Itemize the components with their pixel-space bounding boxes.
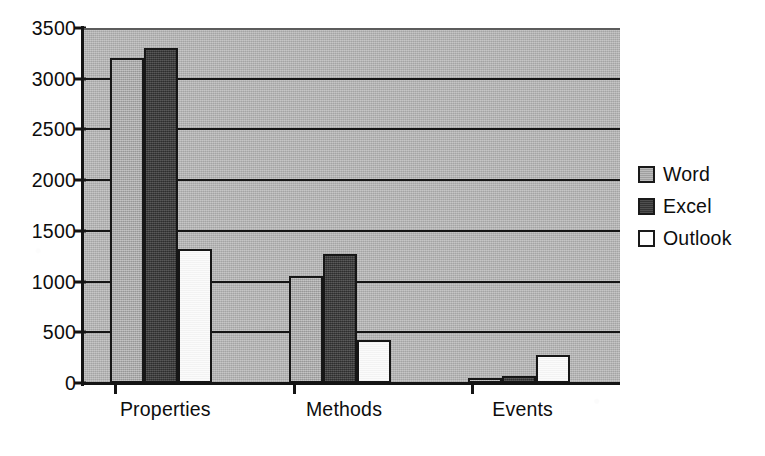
x-axis-tick-mark — [471, 383, 474, 394]
bar-chart-figure: 0500100015002000250030003500 PropertiesM… — [0, 0, 765, 456]
y-axis-tick-label: 500 — [0, 321, 76, 344]
bar — [110, 58, 144, 383]
plot-area — [84, 28, 620, 383]
legend-label: Excel — [663, 195, 712, 218]
legend: WordExcelOutlook — [638, 158, 760, 254]
bar-layer — [84, 28, 620, 383]
y-axis-tick-label: 1000 — [0, 270, 76, 293]
y-axis-tick-label: 3000 — [0, 67, 76, 90]
x-axis-tick-mark — [293, 383, 296, 394]
bar — [323, 254, 357, 383]
legend-swatch-icon — [638, 198, 655, 215]
legend-entry: Excel — [638, 190, 760, 222]
x-axis-category-label: Properties — [120, 398, 211, 421]
bar — [536, 355, 570, 383]
bar — [357, 340, 391, 383]
legend-label: Outlook — [663, 227, 732, 250]
y-axis-tick-label: 1500 — [0, 219, 76, 242]
x-axis-category-label: Methods — [306, 398, 382, 421]
legend-entry: Outlook — [638, 222, 760, 254]
y-axis-tick-label: 2000 — [0, 169, 76, 192]
x-axis-line — [84, 382, 620, 385]
legend-swatch-icon — [638, 166, 655, 183]
legend-label: Word — [663, 163, 710, 186]
y-axis-tick-label: 0 — [0, 372, 76, 395]
y-axis-tick-label: 3500 — [0, 17, 76, 40]
x-axis-category-label: Events — [492, 398, 553, 421]
y-axis-tick-label-group: 0500100015002000250030003500 — [0, 0, 76, 456]
legend-swatch-icon — [638, 230, 655, 247]
bar — [178, 249, 212, 383]
legend-entry: Word — [638, 158, 760, 190]
y-axis-tick-label: 2500 — [0, 118, 76, 141]
x-axis-tick-mark — [114, 383, 117, 394]
bar — [289, 276, 323, 384]
bar — [144, 48, 178, 383]
